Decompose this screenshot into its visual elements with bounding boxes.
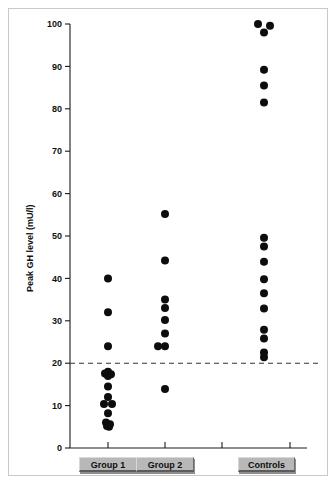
data-point	[260, 258, 268, 266]
y-tick-label: 60	[52, 189, 62, 199]
data-point	[161, 257, 169, 265]
y-tick-label: 70	[52, 146, 62, 156]
scatter-plot-svg: 0102030405060708090100 Peak GH level (mU…	[0, 0, 336, 500]
x-axis-ticks	[108, 442, 290, 448]
data-point	[260, 98, 268, 106]
data-point	[154, 342, 162, 350]
data-point	[100, 400, 108, 408]
y-tick-label: 80	[52, 104, 62, 114]
category-label-group-1: Group 1	[79, 457, 137, 472]
data-point	[161, 385, 169, 393]
y-tick-label: 40	[52, 274, 62, 284]
y-tick-label: 0	[57, 443, 62, 453]
data-point	[260, 335, 268, 343]
data-point	[161, 330, 169, 338]
data-points-group-2	[154, 210, 169, 393]
y-tick-label: 10	[52, 401, 62, 411]
data-point	[260, 243, 268, 251]
data-point	[161, 342, 169, 350]
data-point	[104, 409, 112, 417]
data-points-controls	[254, 20, 274, 361]
data-point	[260, 66, 268, 74]
data-point	[161, 296, 169, 304]
category-label-group-2: Group 2	[136, 457, 194, 472]
y-tick-label: 100	[47, 19, 62, 29]
data-point	[161, 316, 169, 324]
y-axis-title: Peak GH level (mU/l)	[25, 204, 35, 292]
data-point	[260, 305, 268, 313]
y-tick-label: 20	[52, 358, 62, 368]
data-point	[161, 210, 169, 218]
figure-container: 0102030405060708090100 Peak GH level (mU…	[0, 0, 336, 500]
data-point	[161, 304, 169, 312]
data-point	[104, 393, 112, 401]
data-point	[260, 28, 268, 36]
data-point	[104, 308, 112, 316]
data-point	[104, 372, 112, 380]
data-point	[254, 20, 262, 28]
data-point	[260, 326, 268, 334]
y-tick-label: 90	[52, 62, 62, 72]
data-point	[260, 289, 268, 297]
data-point	[260, 81, 268, 89]
data-point	[266, 22, 274, 30]
plot-area: 0102030405060708090100 Peak GH level (mU…	[0, 0, 336, 500]
data-point	[108, 400, 116, 408]
data-points-group-1	[100, 274, 116, 430]
data-point	[104, 342, 112, 350]
data-point	[260, 234, 268, 242]
data-point	[260, 275, 268, 283]
data-point	[105, 423, 113, 431]
data-point	[260, 353, 268, 361]
category-label-controls: Controls	[238, 457, 295, 472]
y-tick-label: 30	[52, 316, 62, 326]
data-point	[104, 383, 112, 391]
y-tick-label: 50	[52, 231, 62, 241]
data-point	[104, 274, 112, 282]
y-axis-ticks: 0102030405060708090100	[47, 19, 70, 453]
